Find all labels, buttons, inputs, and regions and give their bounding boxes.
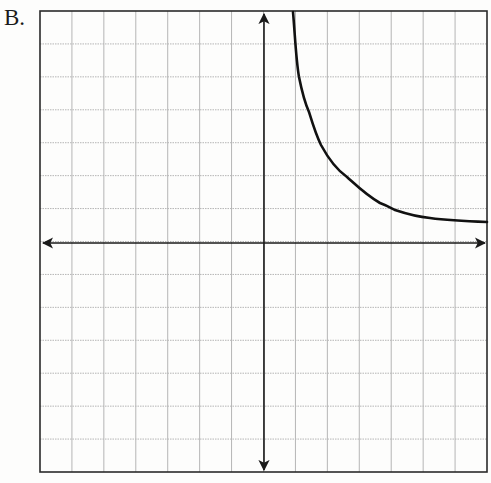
coordinate-graph <box>0 0 491 483</box>
